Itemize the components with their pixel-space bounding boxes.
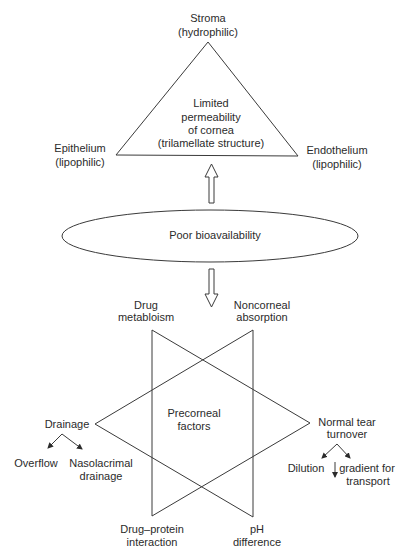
up-arrow-icon	[205, 164, 218, 203]
precorneal-label: Precorneal	[167, 407, 220, 419]
cornea-center-line1: Limited	[193, 97, 228, 109]
precorneal-sublabel: factors	[177, 420, 211, 432]
overflow-arrow-icon	[48, 434, 62, 448]
endothelium-sublabel: (lipophilic)	[312, 158, 362, 170]
gradient-sublabel: transport	[346, 475, 389, 487]
poor-bioavailability-label: Poor bioavailability	[169, 229, 261, 241]
dilution-arrow-icon	[322, 444, 337, 458]
drainage-label: Drainage	[45, 418, 90, 430]
endothelium-label: Endothelium	[306, 144, 367, 156]
down-arrow-icon	[205, 269, 218, 307]
nasolacrimal-arrow-icon	[62, 434, 82, 449]
nasolacrimal-label: Nasolacrimal	[69, 457, 133, 469]
nasolacrimal-sublabel: drainage	[80, 470, 123, 482]
cornea-center-line2: permeability	[181, 111, 241, 123]
bioavailability-diagram: Stroma (hydrophilic) Epithelium (lipophi…	[0, 0, 406, 560]
epithelium-label: Epithelium	[54, 142, 105, 154]
overflow-label: Overflow	[14, 457, 57, 469]
dilution-label: Dilution	[288, 462, 325, 474]
cornea-center-line3: of cornea	[188, 124, 235, 136]
gradient-label: gradient for	[339, 462, 395, 474]
star-line-b	[95, 330, 253, 517]
stroma-sublabel: (hydrophilic)	[178, 26, 238, 38]
normal-tear-sublabel: turnover	[327, 428, 368, 440]
star-line-a	[152, 330, 310, 516]
stroma-label: Stroma	[190, 12, 226, 24]
drug-metabolism-sublabel: metabloism	[118, 311, 174, 323]
cornea-center-line4: (trilamellate structure)	[158, 137, 264, 149]
drug-protein-sublabel: interaction	[127, 536, 178, 548]
ph-sublabel: difference	[233, 536, 281, 548]
gradient-arrow-icon	[337, 444, 350, 458]
normal-tear-label: Normal tear	[318, 416, 376, 428]
drug-protein-label: Drug–protein	[120, 523, 184, 535]
noncorneal-absorption-label: Noncorneal	[234, 299, 290, 311]
noncorneal-absorption-sublabel: absorption	[236, 311, 287, 323]
drug-metabolism-label: Drug	[134, 299, 158, 311]
epithelium-sublabel: (lipophilic)	[55, 156, 105, 168]
ph-label: pH	[250, 523, 264, 535]
